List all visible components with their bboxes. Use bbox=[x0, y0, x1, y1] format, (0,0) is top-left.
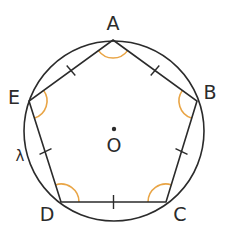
label-c: C bbox=[173, 203, 186, 225]
angle-arcs bbox=[35, 51, 192, 202]
label-b: B bbox=[203, 81, 216, 103]
label-e: E bbox=[8, 86, 20, 108]
label-o: O bbox=[107, 134, 122, 156]
angle-arc-a bbox=[99, 51, 128, 58]
angle-arc-e bbox=[35, 90, 47, 118]
label-d: D bbox=[40, 203, 55, 225]
tick-ab bbox=[151, 66, 160, 76]
angle-arc-b bbox=[179, 90, 191, 118]
center-point-o bbox=[112, 127, 116, 131]
tick-ea bbox=[67, 66, 76, 76]
label-lambda: λ bbox=[16, 147, 25, 165]
label-a: A bbox=[107, 12, 120, 34]
pentagon-diagram: A B C D E O λ bbox=[0, 0, 229, 228]
